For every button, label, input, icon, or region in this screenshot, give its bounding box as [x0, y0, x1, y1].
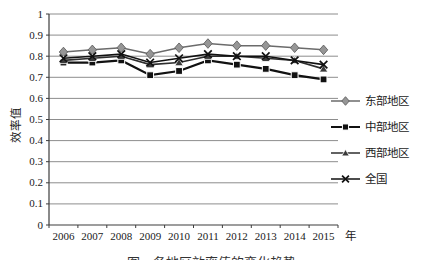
diamond-marker [204, 39, 212, 49]
diamond-marker [342, 97, 350, 106]
figure-caption-clipped: 图 各地区效率值的变化趋势 [0, 252, 422, 260]
x-tick-label: 2013 [255, 230, 278, 242]
y-tick-label: 0.4 [29, 134, 43, 146]
square-marker [342, 124, 348, 130]
diamond-marker [175, 43, 183, 53]
y-tick-label: 0.9 [29, 29, 43, 41]
diamond-marker [290, 43, 298, 53]
y-tick-label: 0.1 [29, 197, 43, 209]
y-tick-label: 0.6 [29, 92, 43, 104]
y-tick-label: 0.3 [29, 155, 43, 167]
series-line-0 [63, 44, 323, 55]
legend-label: 西部地区 [365, 146, 409, 159]
y-tick-label: 0 [38, 219, 44, 231]
series-line-1 [63, 60, 323, 79]
square-marker [320, 76, 327, 83]
x-tick-label: 2015 [313, 230, 336, 242]
x-tick-label: 2014 [284, 230, 307, 242]
line-chart-canvas: 00.10.20.30.40.50.60.70.80.9120062007200… [0, 0, 422, 260]
legend-label: 东部地区 [365, 94, 409, 107]
x-tick-label: 2008 [110, 230, 133, 242]
square-marker [147, 72, 154, 79]
efficiency-line-chart-figure: 00.10.20.30.40.50.60.70.80.9120062007200… [0, 0, 422, 260]
x-tick-label: 2007 [81, 230, 104, 242]
x-tick-label: 2006 [52, 230, 75, 242]
y-tick-label: 0.2 [29, 176, 43, 188]
square-marker [291, 72, 298, 79]
x-tick-label: 2011 [197, 230, 219, 242]
diamond-marker [319, 45, 327, 55]
legend-label: 中部地区 [365, 120, 409, 133]
x-axis-unit-label: 年 [345, 229, 356, 242]
y-tick-label: 0.8 [29, 50, 43, 62]
y-tick-label: 0.5 [29, 113, 43, 125]
square-marker [233, 61, 240, 68]
square-marker [262, 65, 269, 72]
square-marker [176, 68, 183, 75]
diamond-marker [233, 41, 241, 51]
y-axis-title: 效率值 [7, 99, 21, 151]
x-tick-label: 2012 [226, 230, 248, 242]
y-tick-label: 1 [38, 8, 44, 20]
diamond-marker [146, 49, 154, 59]
y-tick-label: 0.7 [29, 71, 43, 83]
x-tick-label: 2010 [168, 230, 191, 242]
x-tick-label: 2009 [139, 230, 162, 242]
legend-label: 全国 [365, 172, 387, 185]
diamond-marker [262, 41, 270, 51]
